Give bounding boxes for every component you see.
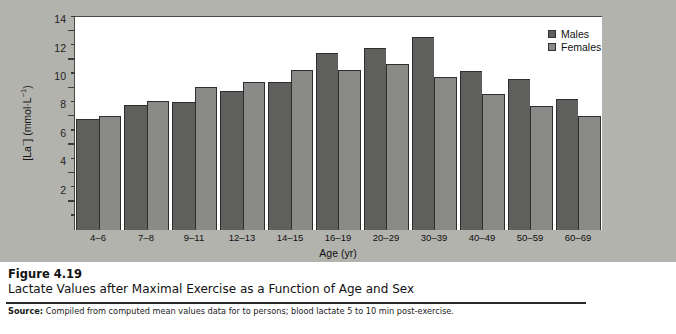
y-tick-label: 12 xyxy=(44,42,66,54)
bar-males xyxy=(76,119,99,230)
bar-group xyxy=(315,17,363,230)
bar-females xyxy=(291,70,314,230)
bar-males xyxy=(556,99,579,230)
y-tick-major xyxy=(68,200,75,202)
legend-item-females: Females xyxy=(548,40,601,53)
x-axis-title: Age (yr) xyxy=(74,247,602,259)
y-tick-label: 8 xyxy=(44,98,66,110)
bar-males xyxy=(316,53,339,231)
y-tick-major xyxy=(68,58,75,60)
bar-females xyxy=(530,106,553,230)
bar-group xyxy=(123,17,171,230)
source-body: Compiled from computed mean values data … xyxy=(43,306,454,316)
source-label: Source: xyxy=(8,306,43,316)
bar-males xyxy=(124,105,147,230)
y-tick-major xyxy=(68,30,75,32)
legend-swatch-males-icon xyxy=(548,30,556,38)
x-tick-label: 9–11 xyxy=(170,232,218,248)
y-tick-label: 4 xyxy=(44,155,66,167)
bar-males xyxy=(268,82,291,230)
x-tick-label: 30–39 xyxy=(410,232,458,248)
legend-swatch-females-icon xyxy=(548,43,556,51)
x-axis-tick-labels: 4–67–89–1112–1314–1516–1920–2930–3940–49… xyxy=(74,232,602,248)
bar-males xyxy=(508,79,531,230)
y-tick-major xyxy=(68,115,75,117)
bar-group xyxy=(410,17,458,230)
bar-females xyxy=(482,94,505,230)
legend-item-males: Males xyxy=(548,27,601,40)
bar-females xyxy=(243,82,266,230)
bar-group xyxy=(362,17,410,230)
figure-number: Figure 4.19 xyxy=(8,267,82,281)
x-tick-label: 40–49 xyxy=(458,232,506,248)
bar-group xyxy=(458,17,506,230)
bar-females xyxy=(195,87,218,230)
bar-group xyxy=(506,17,554,230)
x-tick-label: 4–6 xyxy=(74,232,122,248)
bar-females xyxy=(434,77,457,230)
chart-panel: [La−] (mmol·L−1) 2468101214 4–67–89–1112… xyxy=(0,0,676,262)
bar-series-layer xyxy=(75,17,602,230)
y-title-part-2: ] (mmol·L xyxy=(21,97,33,141)
bar-females xyxy=(338,70,361,230)
figure-page: [La−] (mmol·L−1) 2468101214 4–67–89–1112… xyxy=(0,0,676,334)
bar-females xyxy=(386,64,409,230)
x-tick-label: 60–69 xyxy=(554,232,602,248)
y-title-part-1: [La xyxy=(21,146,33,161)
y-title-part-3: ) xyxy=(21,85,33,89)
bar-males xyxy=(412,37,435,230)
y-tick-major xyxy=(68,172,75,174)
y-tick-label: 6 xyxy=(44,127,66,139)
x-tick-label: 7–8 xyxy=(122,232,170,248)
bar-females xyxy=(99,116,122,230)
x-tick-label: 12–13 xyxy=(218,232,266,248)
x-tick-label: 16–19 xyxy=(314,232,362,248)
x-tick-label: 50–59 xyxy=(506,232,554,248)
bar-females xyxy=(147,101,170,230)
y-title-sup-1: − xyxy=(19,142,28,146)
x-tick-label: 14–15 xyxy=(266,232,314,248)
bar-group xyxy=(219,17,267,230)
figure-source: Source: Compiled from computed mean valu… xyxy=(8,306,588,317)
x-tick-label: 20–29 xyxy=(362,232,410,248)
bar-group xyxy=(171,17,219,230)
bar-group xyxy=(75,17,123,230)
bar-males xyxy=(460,71,483,230)
y-axis-title: [La−] (mmol·L−1) xyxy=(19,85,33,160)
caption-area: Figure 4.19 Lactate Values after Maximal… xyxy=(0,262,676,334)
y-tick-label: 10 xyxy=(44,70,66,82)
y-title-sup-2: −1 xyxy=(19,89,28,98)
bar-males xyxy=(364,48,387,230)
bar-males xyxy=(172,102,195,230)
plot-area: 2468101214 xyxy=(74,16,602,230)
caption-divider xyxy=(6,302,586,304)
y-tick-major xyxy=(68,143,75,145)
legend: Males Females xyxy=(548,27,601,53)
bar-group xyxy=(267,17,315,230)
legend-label-females: Females xyxy=(561,41,601,53)
y-tick-label: 14 xyxy=(44,13,66,25)
y-tick-label: 2 xyxy=(44,184,66,196)
legend-label-males: Males xyxy=(561,28,589,40)
bar-females xyxy=(578,116,601,230)
bar-males xyxy=(220,91,243,230)
figure-title: Lactate Values after Maximal Exercise as… xyxy=(8,282,414,296)
y-tick-major xyxy=(68,87,75,89)
